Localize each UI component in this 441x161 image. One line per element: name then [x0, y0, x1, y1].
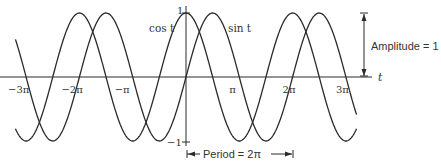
t-axis-label: t [378, 71, 383, 84]
arrowhead-right-icon [285, 152, 292, 157]
x-tick-label: 3π [336, 84, 349, 95]
x-tick-label: −2π [61, 84, 83, 95]
x-tick-label: 2π [283, 84, 296, 95]
sine-cosine-diagram: cos t sin t 1 −1 −3π−2π−ππ2π3π t Amplitu… [0, 0, 441, 161]
amplitude-label: Amplitude = 1 [371, 40, 439, 52]
y-bottom-label: −1 [167, 137, 182, 148]
sin-label: sin t [228, 22, 252, 34]
x-tick-label: −π [115, 84, 130, 95]
y-top-label: 1 [177, 5, 183, 16]
arrowhead-down-icon [362, 69, 367, 76]
arrowhead-up-icon [362, 14, 367, 21]
x-tick-label: −3π [8, 84, 30, 95]
x-tick-labels: −3π−2π−ππ2π3π [8, 84, 349, 95]
cos-label: cos t [149, 22, 175, 34]
period-label: Period = 2π [203, 148, 261, 160]
arrowhead-left-icon [188, 152, 195, 157]
x-tick-label: π [229, 84, 236, 95]
